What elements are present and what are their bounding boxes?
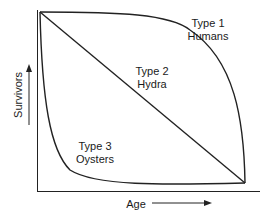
survivorship-diagram: Type 1 Humans Type 2 Hydra Type 3 Oyster…	[0, 0, 267, 219]
x-arrow-icon	[152, 200, 212, 206]
type2-label: Type 2	[135, 65, 168, 77]
type1-label: Type 1	[191, 17, 224, 29]
x-axis-label: Age	[126, 198, 146, 210]
y-axis-label: Survivors	[12, 72, 24, 118]
humans-label: Humans	[188, 30, 229, 42]
hydra-label: Hydra	[137, 78, 167, 90]
type3-label: Type 3	[78, 140, 111, 152]
y-arrow-icon	[26, 64, 32, 125]
oysters-label: Oysters	[76, 153, 114, 165]
